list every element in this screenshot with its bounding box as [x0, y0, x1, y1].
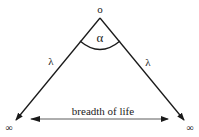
angle-label: α: [97, 30, 104, 45]
right-side-label: λ: [145, 56, 151, 68]
breadth-of-life-diagram: o α λ λ ∞ ∞ breadth of life: [0, 0, 199, 137]
base-label: breadth of life: [72, 105, 134, 117]
left-end-label: ∞: [5, 122, 12, 133]
apex-label: o: [97, 3, 103, 15]
left-side-label: λ: [48, 55, 54, 67]
right-end-label: ∞: [186, 122, 193, 133]
base-arrow-left-head: [30, 116, 40, 122]
